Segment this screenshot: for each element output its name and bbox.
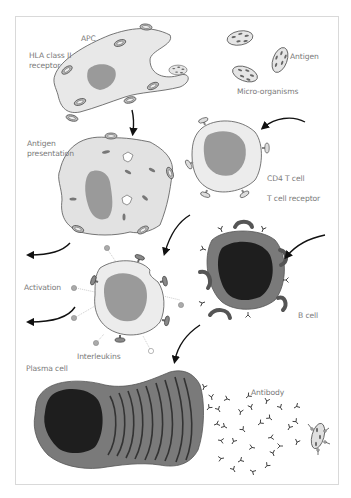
- antigen-presenting-cell: [59, 133, 175, 236]
- label-antigen-presentation: Antigen presentation: [27, 139, 74, 159]
- label-activation: Activation: [24, 283, 61, 293]
- label-antibody: Antibody: [251, 388, 284, 398]
- arrow-left-lower: [30, 307, 75, 322]
- label-interleukins: Interleukins: [77, 352, 121, 362]
- antibody-bound-antigen: [308, 422, 330, 455]
- label-cd4-t-cell: CD4 T cell: [267, 174, 305, 184]
- label-b-cell: B cell: [298, 311, 318, 321]
- arrow-to-activation: [165, 215, 190, 252]
- micro-organisms: [226, 29, 291, 85]
- immune-response-diagram: [0, 0, 351, 498]
- label-micro-organisms: Micro-organisms: [237, 87, 298, 97]
- b-cell: [199, 222, 289, 318]
- apc-cell: [54, 23, 188, 122]
- arrow-to-b-cell: [287, 235, 325, 256]
- label-t-cell-receptor: T cell receptor: [267, 194, 320, 204]
- label-plasma-cell: Plasma cell: [26, 364, 68, 374]
- label-antigen: Antigen: [290, 52, 319, 62]
- cd4-t-cell: [184, 117, 269, 199]
- activated-t-cell: [71, 245, 183, 353]
- label-apc: APC: [81, 34, 96, 44]
- plasma-cell: [34, 371, 203, 469]
- arrow-apc-down: [132, 110, 134, 132]
- label-hla-class-ii-receptor: HLA class II receptor: [29, 51, 71, 71]
- arrow-to-plasma: [175, 325, 200, 360]
- arrow-to-t-cell: [264, 118, 305, 127]
- arrow-left-upper: [30, 243, 70, 255]
